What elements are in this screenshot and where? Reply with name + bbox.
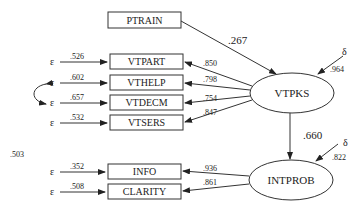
vthelp-box: VTHELP — [110, 75, 183, 90]
svg-text:INFO: INFO — [133, 166, 156, 177]
disturbance-value-vtpks: .964 — [330, 65, 344, 74]
vtpks-latent: VTPKS — [250, 73, 334, 113]
error-symbol-clarity: ε — [50, 186, 54, 197]
vtpart-box: VTPART — [110, 54, 183, 69]
svg-text:VTDECM: VTDECM — [125, 97, 167, 108]
disturbance-label-vtpks: δ — [342, 46, 347, 57]
error-symbol-info: ε — [50, 166, 54, 177]
clarity-box: CLARITY — [108, 184, 181, 199]
svg-text:VTPKS: VTPKS — [275, 87, 310, 99]
svg-text:VTSERS: VTSERS — [128, 117, 165, 128]
error-value-vthelp: .602 — [70, 73, 84, 82]
error-symbol-vthelp: ε — [50, 77, 54, 88]
error-symbol-vtsers: ε — [50, 117, 54, 128]
disturbance-value-intprob: .822 — [332, 153, 346, 162]
error-value-vtdecm: .657 — [70, 93, 84, 102]
error-value-info: .352 — [70, 162, 84, 171]
correlation-value-label: .503 — [10, 150, 24, 159]
svg-text:CLARITY: CLARITY — [123, 186, 166, 197]
disturbance-label-intprob: δ — [343, 137, 348, 148]
error-value-vtpart: .526 — [70, 52, 84, 61]
path-coef-vtpks-intprob: .660 — [303, 129, 323, 141]
error-value-clarity: .508 — [70, 182, 84, 191]
path-diagram: PTRAIN .267 VTPKS δ .964 VTPART VTHELP V… — [0, 0, 357, 202]
loading-vtdecm — [185, 96, 250, 103]
loading-value-vtsers: .847 — [203, 108, 217, 117]
vtsers-box: VTSERS — [110, 115, 183, 130]
loading-value-vthelp: .798 — [203, 75, 217, 84]
svg-text:INTPROB: INTPROB — [267, 174, 314, 186]
path-coef-ptrain-vtpks: .267 — [228, 34, 248, 46]
vtdecm-box: VTDECM — [110, 95, 183, 110]
loading-vthelp — [185, 83, 250, 90]
info-box: INFO — [108, 164, 181, 179]
error-symbol-vtpart: ε — [50, 56, 54, 67]
svg-text:VTHELP: VTHELP — [127, 77, 166, 88]
error-value-vtsers: .532 — [70, 113, 84, 122]
loading-value-info: .936 — [203, 164, 217, 173]
ptrain-box: PTRAIN — [108, 12, 181, 28]
loading-value-clarity: .861 — [203, 178, 217, 187]
loading-value-vtdecm: .754 — [203, 94, 217, 103]
loading-value-vtpart: .850 — [203, 59, 217, 68]
svg-text:PTRAIN: PTRAIN — [126, 15, 162, 26]
error-correlation-curve — [34, 84, 46, 104]
error-symbol-vtdecm: ε — [50, 97, 54, 108]
loading-vtsers — [185, 100, 252, 122]
loading-vtpart — [185, 62, 252, 86]
intprob-latent: INTPROB — [249, 160, 333, 200]
svg-text:VTPART: VTPART — [128, 56, 165, 67]
